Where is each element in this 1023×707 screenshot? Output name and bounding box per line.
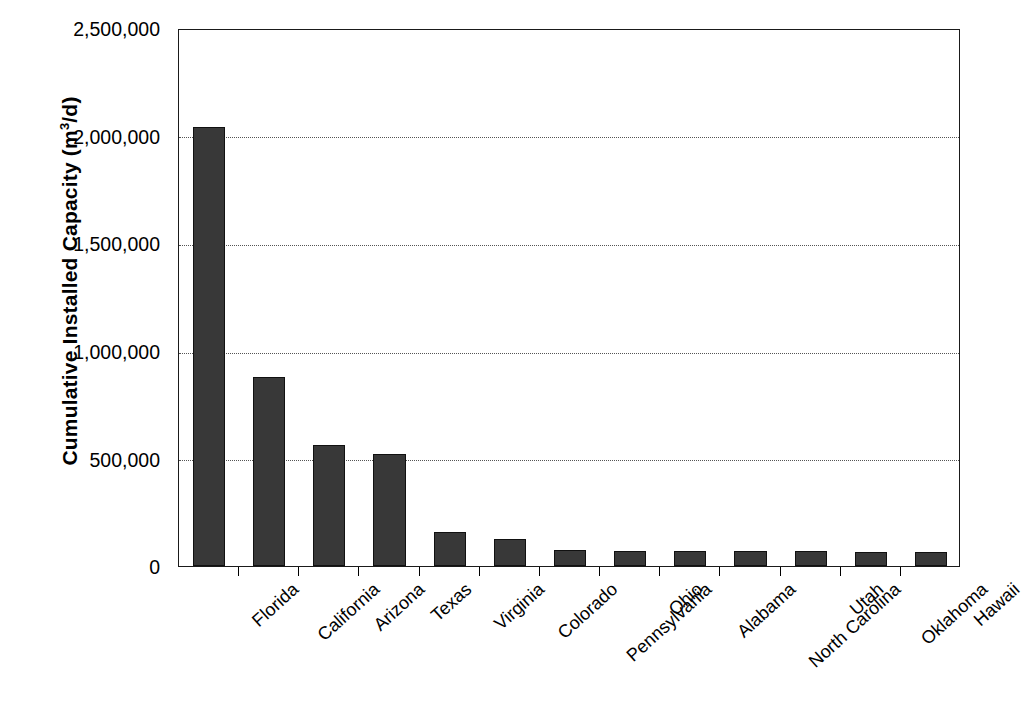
x-ticklabel-virginia: Virginia — [490, 579, 548, 634]
x-ticklabel-colorado: Colorado — [554, 579, 622, 643]
x-ticklabel-arizona: Arizona — [370, 579, 429, 635]
x-ticklabel-north-carolina: North Carolina — [805, 579, 905, 672]
x-ticklabel-texas: Texas — [427, 579, 475, 625]
x-ticklabel-alabama: Alabama — [734, 579, 800, 641]
x-ticklabel-florida: Florida — [248, 579, 302, 631]
x-ticklabel-california: California — [314, 579, 384, 645]
